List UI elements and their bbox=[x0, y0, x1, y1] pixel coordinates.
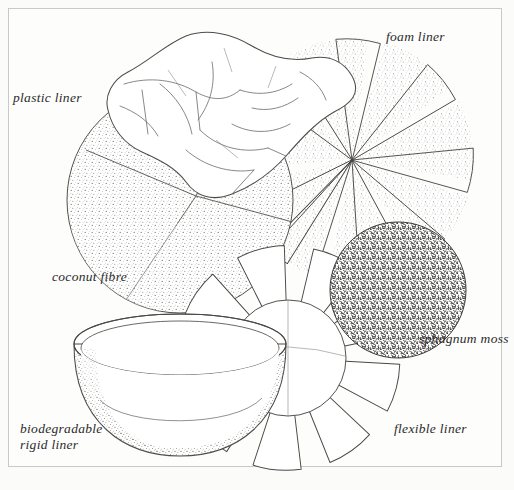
rigid-liner-bowl bbox=[74, 314, 286, 456]
illustration-artwork bbox=[0, 0, 514, 490]
label-flexible-liner: flexible liner bbox=[394, 421, 467, 437]
label-foam-liner: foam liner bbox=[386, 29, 445, 45]
illustration-page: plastic liner foam liner coconut fibre s… bbox=[0, 0, 514, 490]
label-plastic-liner: plastic liner bbox=[13, 90, 82, 106]
label-biodegradable-rigid-liner: biodegradable rigid liner bbox=[20, 421, 103, 453]
label-coconut-fibre: coconut fibre bbox=[52, 269, 127, 285]
label-sphagnum-moss: sphagnum moss bbox=[419, 331, 509, 347]
